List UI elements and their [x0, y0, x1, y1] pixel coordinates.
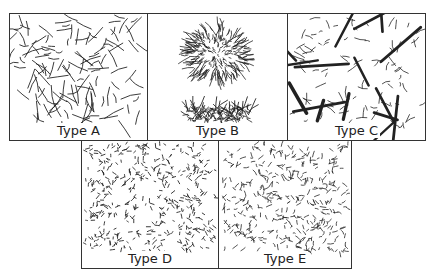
- type-d-interdendritic-illustration: [82, 141, 218, 268]
- panel-type-b: Type B: [147, 13, 288, 141]
- panel-label-type-d: Type D: [126, 251, 174, 266]
- panel-label-type-e: Type E: [262, 251, 308, 266]
- panel-label-type-b: Type B: [194, 123, 241, 138]
- type-e-oriented-illustration: [219, 141, 351, 268]
- type-b-rosette-illustration: [148, 14, 287, 140]
- panel-label-type-c: Type C: [333, 123, 380, 138]
- panel-type-c: Type C: [287, 13, 426, 141]
- panel-type-d: Type D: [81, 140, 219, 269]
- panel-type-e: Type E: [218, 140, 352, 269]
- panel-label-type-a: Type A: [55, 123, 102, 138]
- type-a-flakes-illustration: [10, 14, 147, 140]
- type-c-coarse-flakes-illustration: [288, 14, 425, 140]
- panel-type-a: Type A: [9, 13, 148, 141]
